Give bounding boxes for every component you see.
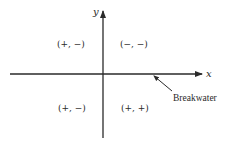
quadrant-lower-left: (+, −)	[58, 103, 86, 113]
y-axis-label: y	[92, 6, 99, 17]
quadrant-upper-right: (−, −)	[120, 39, 148, 49]
x-axis-label: x	[206, 68, 212, 79]
breakwater-pointer-arrow	[154, 76, 172, 91]
quadrant-lower-right: (+, +)	[121, 103, 149, 113]
quadrant-upper-left: (+, −)	[57, 39, 85, 49]
breakwater-label: Breakwater	[173, 93, 218, 103]
coordinate-diagram: x y (+, −) (−, −) (+, −) (+, +) Breakwat…	[0, 0, 226, 143]
